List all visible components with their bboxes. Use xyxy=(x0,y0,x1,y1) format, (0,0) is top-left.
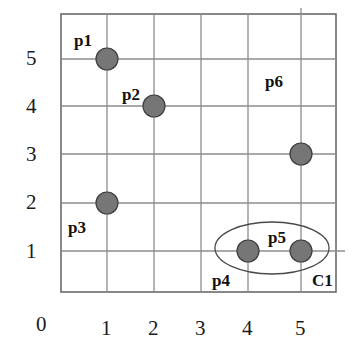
data-point-p3[interactable] xyxy=(96,192,118,214)
point-label-p3: p3 xyxy=(68,219,86,236)
data-point-p5[interactable] xyxy=(290,240,312,262)
x-tick-label-3: 3 xyxy=(195,318,206,339)
scatter-plot-figure: 5 4 3 2 1 0 1 2 3 4 5 p1 p2 p6 p3 p5 p4 … xyxy=(0,0,361,356)
point-label-p6: p6 xyxy=(265,73,283,90)
y-tick-label-2: 2 xyxy=(26,192,37,213)
cluster-label-c1: C1 xyxy=(312,272,333,289)
y-tick-label-4: 4 xyxy=(26,96,37,117)
vertical-gridlines xyxy=(107,8,301,292)
y-tick-label-1: 1 xyxy=(26,241,37,262)
point-label-p1: p1 xyxy=(74,32,92,49)
x-tick-label-5: 5 xyxy=(295,318,306,339)
y-tick-label-3: 3 xyxy=(26,144,37,165)
data-point-p1[interactable] xyxy=(96,48,118,70)
point-label-p2: p2 xyxy=(122,86,140,103)
data-point-p2[interactable] xyxy=(143,95,165,117)
plot-canvas xyxy=(0,0,361,356)
point-label-p4: p4 xyxy=(212,272,230,289)
y-tick-label-5: 5 xyxy=(26,48,37,69)
x-tick-label-4: 4 xyxy=(242,318,253,339)
point-label-p5: p5 xyxy=(268,229,286,246)
data-point-p6[interactable] xyxy=(290,143,312,165)
data-point-p4[interactable] xyxy=(237,240,259,262)
x-tick-label-1: 1 xyxy=(101,318,112,339)
x-tick-label-0: 0 xyxy=(36,314,47,335)
x-tick-label-2: 2 xyxy=(148,318,159,339)
